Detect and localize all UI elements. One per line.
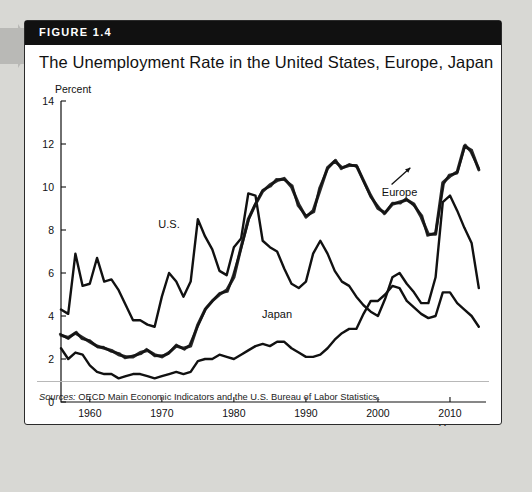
series-line-us: [61, 193, 479, 326]
annotation-label-us: U.S.: [158, 218, 179, 230]
y-tick-label: 10: [42, 181, 54, 193]
chart-plot-area: 02468101214196019701980199020002010YearU…: [25, 21, 503, 426]
series-line-europe: [61, 146, 479, 357]
y-tick-label: 2: [48, 353, 54, 365]
y-tick-label: 8: [48, 224, 54, 236]
annotation-label-europe: Europe: [382, 186, 417, 198]
page-edge-tab: [0, 28, 26, 64]
x-axis-title: Year: [439, 423, 462, 426]
source-note: Sources: OECD Main Economic Indicators a…: [39, 392, 380, 402]
x-tick-label: 1970: [150, 407, 174, 419]
y-tick-label: 6: [48, 267, 54, 279]
x-tick-label: 2010: [438, 407, 462, 419]
source-text: OECD Main Economic Indicators and the U.…: [78, 392, 380, 402]
y-tick-label: 4: [48, 310, 54, 322]
figure-card: FIGURE 1.4 The Unemployment Rate in the …: [24, 20, 502, 425]
x-tick-label: 1980: [222, 407, 246, 419]
x-tick-label: 1960: [78, 407, 102, 419]
annotation-label-japan: Japan: [262, 308, 292, 320]
x-tick-label: 1990: [294, 407, 318, 419]
y-tick-label: 14: [42, 95, 54, 107]
x-tick-label: 2000: [366, 407, 390, 419]
y-tick-label: 12: [42, 138, 54, 150]
source-prefix: Sources:: [39, 392, 76, 402]
footer-divider: [37, 381, 489, 382]
unemployment-line-chart: 02468101214196019701980199020002010YearU…: [25, 21, 503, 426]
series-line-europe-texture: [60, 145, 479, 358]
